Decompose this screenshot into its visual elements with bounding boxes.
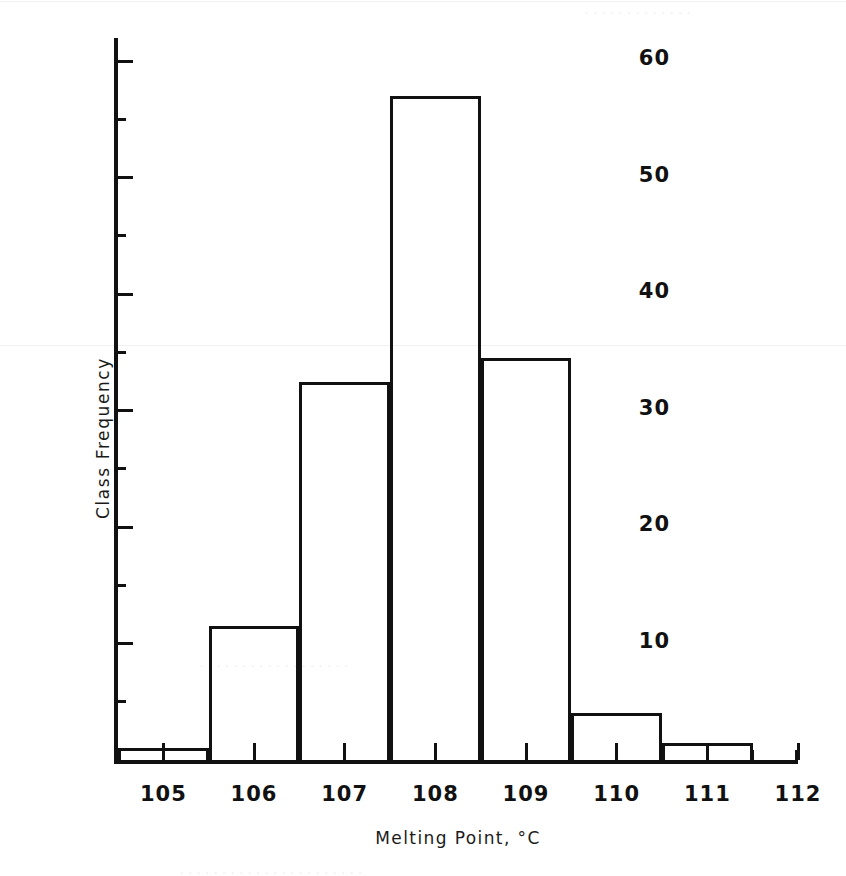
histogram-bar	[571, 713, 662, 760]
x-axis-tick-label: 105	[123, 782, 203, 806]
y-axis-tick-major	[118, 642, 133, 645]
x-axis-tick-label: 111	[667, 782, 747, 806]
bleed-artifact-line	[0, 1, 846, 2]
y-axis-tick-minor	[118, 467, 126, 470]
y-axis-tick-major	[118, 409, 133, 412]
y-axis-tick-label: 20	[606, 512, 670, 536]
y-axis-tick-label: 60	[606, 46, 670, 70]
plot-area: 102030405060 105106107108109110111112	[118, 38, 798, 760]
y-axis-tick-label: 10	[606, 629, 670, 653]
x-axis-tick-label: 106	[214, 782, 294, 806]
histogram-figure: . . . . . . . . . . . . . . . . . . . . …	[0, 0, 846, 876]
y-axis-tick-minor	[118, 234, 126, 237]
x-axis-tick-label: 107	[305, 782, 385, 806]
bleed-artifact-text: . . . . . . . . . . . . .	[585, 2, 691, 18]
histogram-bar	[209, 626, 300, 760]
y-axis-tick-major	[118, 60, 133, 63]
y-axis-tick-major	[118, 176, 133, 179]
histogram-bar	[481, 358, 572, 760]
x-axis-tick-label: 112	[758, 782, 838, 806]
histogram-bar	[118, 748, 209, 760]
y-axis-tick-major	[118, 526, 133, 529]
y-axis-tick-minor	[118, 118, 126, 121]
y-axis-tick-major	[118, 293, 133, 296]
histogram-bar	[662, 743, 753, 760]
x-axis-tick-label: 108	[395, 782, 475, 806]
bleed-artifact-text: . . . . . . . . . . . . . . . . . . . . …	[180, 862, 363, 876]
y-axis-line	[114, 38, 118, 760]
y-axis-tick-minor	[118, 351, 126, 354]
y-axis-tick-minor	[118, 700, 126, 703]
y-axis-tick-minor	[118, 584, 126, 587]
x-axis-tick-label: 109	[486, 782, 566, 806]
y-axis-tick-label: 40	[606, 279, 670, 303]
y-axis-title: Class Frequency	[93, 357, 113, 519]
x-axis-title: Melting Point, °C	[118, 828, 798, 848]
x-axis-tick-major	[797, 743, 800, 760]
y-axis-tick-label: 50	[606, 163, 670, 187]
histogram-bar	[390, 96, 481, 760]
y-axis-tick-label: 30	[606, 396, 670, 420]
x-axis-line	[114, 760, 798, 764]
x-axis-tick-label: 110	[577, 782, 657, 806]
histogram-bar	[299, 382, 390, 760]
